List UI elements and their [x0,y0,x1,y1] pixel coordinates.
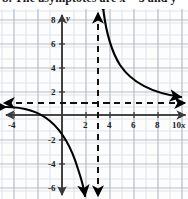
y-tick--4: -4 [48,159,56,169]
y-tick--2: -2 [48,135,56,145]
x-tick-2: 2 [83,120,88,130]
caption-text: b. The asymptotes are x = 3 and y = 1. [2,0,188,6]
y-tick-8: 8 [51,15,56,25]
coordinate-plane: -4 2 4 6 8 10 8 6 4 2 -2 -4 -6 x y [0,9,188,199]
curve-right-branch [104,11,182,97]
x-tick-labels: -4 2 4 6 8 10 [8,120,182,130]
graph-figure: b. The asymptotes are x = 3 and y = 1. [0,0,188,199]
y-tick--6: -6 [48,183,56,193]
curve-left-branch [6,107,85,196]
axis-lines [6,15,186,195]
x-axis-label: x [180,120,186,130]
x-tick-4: 4 [107,120,112,130]
y-tick-6: 6 [51,39,56,49]
y-tick-2: 2 [51,87,56,97]
x-tick--4: -4 [8,120,16,130]
graph-svg: -4 2 4 6 8 10 8 6 4 2 -2 -4 -6 x y [0,9,188,199]
x-tick-6: 6 [131,120,136,130]
y-axis-label: y [65,13,71,23]
y-tick-4: 4 [51,63,56,73]
x-tick-8: 8 [155,120,160,130]
caption-strip: b. The asymptotes are x = 3 and y = 1. [0,0,188,9]
